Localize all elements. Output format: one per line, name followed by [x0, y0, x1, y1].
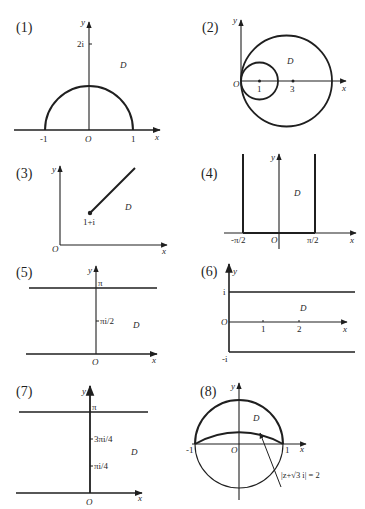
x-axis-label: x: [161, 246, 166, 256]
panel-5: (5) y x π πi/2 O D: [16, 265, 157, 367]
tick-label-pi: π: [98, 278, 103, 288]
region-label: D: [132, 320, 140, 330]
y-axis-label: y: [230, 381, 235, 391]
panel-label: (5): [16, 265, 33, 281]
x-axis-label: x: [154, 132, 159, 142]
y-axis-label: y: [87, 265, 92, 275]
x-axis-label: x: [151, 355, 156, 365]
panel-label: (4): [201, 166, 218, 182]
center-point-3: [292, 80, 295, 83]
panel-label: (7): [16, 384, 33, 400]
tick-label-half-pi-i: πi/2: [100, 316, 114, 326]
y-axis-label: y: [270, 152, 275, 162]
region-label: D: [286, 56, 294, 66]
x-axis-label: x: [299, 444, 304, 454]
y-axis-label: y: [80, 17, 85, 27]
panel-label: (3): [16, 166, 33, 182]
panel-2: (2) y x O 1 3 D: [202, 15, 346, 127]
x-axis-label: x: [341, 83, 346, 93]
figure-canvas: (1) y x 2i -1 O 1 D (2) y x O 1 3 D (3) …: [0, 0, 365, 509]
x-axis-label: x: [137, 493, 142, 503]
panel-label: (2): [202, 20, 219, 36]
tick-label-1: 1: [285, 445, 290, 455]
region-label: D: [252, 413, 260, 423]
panel-7: (7) y x π 3πi/4 πi/4 O D: [16, 384, 148, 507]
point-label: 1+i: [83, 217, 96, 227]
panel-3: (3) y x 1+i D O: [16, 164, 167, 256]
y-axis-label: y: [232, 15, 237, 25]
region-label: D: [124, 202, 132, 212]
region-label: D: [119, 60, 127, 70]
tick-label-1: 1: [261, 324, 266, 334]
tick-label-2i: 2i: [77, 39, 85, 49]
origin-label: O: [221, 317, 228, 327]
tick-label-half-pi: π/2: [307, 235, 319, 245]
panel-label: (1): [16, 20, 33, 36]
origin-label: O: [52, 244, 59, 254]
tick-label-pi-4: πi/4: [94, 461, 109, 471]
x-axis-label: x: [349, 235, 354, 245]
origin-label: O: [85, 134, 92, 144]
tick-label-neg1: -1: [186, 445, 194, 455]
y-axis-label: y: [232, 266, 237, 276]
tick-label-3: 3: [290, 84, 295, 94]
region-label: D: [130, 447, 138, 457]
panel-8: (8) y x -1 O 1 D |z+√3 i| = 2: [186, 381, 320, 500]
tick-label-1: 1: [131, 134, 136, 144]
tick-label-1: 1: [257, 84, 262, 94]
panel-6: (6) y x i -i O 1 2 D: [201, 264, 355, 364]
tick-label-neg1: -1: [40, 134, 48, 144]
tick-label-3pi-4: 3πi/4: [94, 434, 113, 444]
annotation-label: |z+√3 i| = 2: [281, 470, 320, 480]
x-axis-label: x: [342, 324, 347, 334]
origin-label: O: [92, 357, 99, 367]
region-label: D: [299, 303, 307, 313]
panel-1: (1) y x 2i -1 O 1 D: [14, 17, 160, 144]
y-axis-label: y: [81, 386, 86, 396]
panel-4: (4) y x -π/2 O π/2 D: [201, 152, 356, 249]
tick-label-pi: π: [92, 402, 97, 412]
region-label: D: [293, 188, 301, 198]
start-point: [88, 211, 92, 215]
tick-label-2: 2: [297, 324, 302, 334]
panel-label: (8): [200, 384, 217, 400]
center-point-1: [258, 80, 261, 83]
origin-label: O: [233, 79, 240, 89]
origin-label: O: [231, 445, 238, 455]
panel-label: (6): [201, 264, 218, 280]
tick-label-neg-half-pi: -π/2: [231, 235, 246, 245]
origin-label: O: [86, 497, 93, 507]
tick-label-neg-i: -i: [222, 354, 228, 364]
origin-label: O: [271, 235, 278, 245]
tick-label-i: i: [223, 287, 226, 297]
y-axis-label: y: [51, 164, 56, 174]
